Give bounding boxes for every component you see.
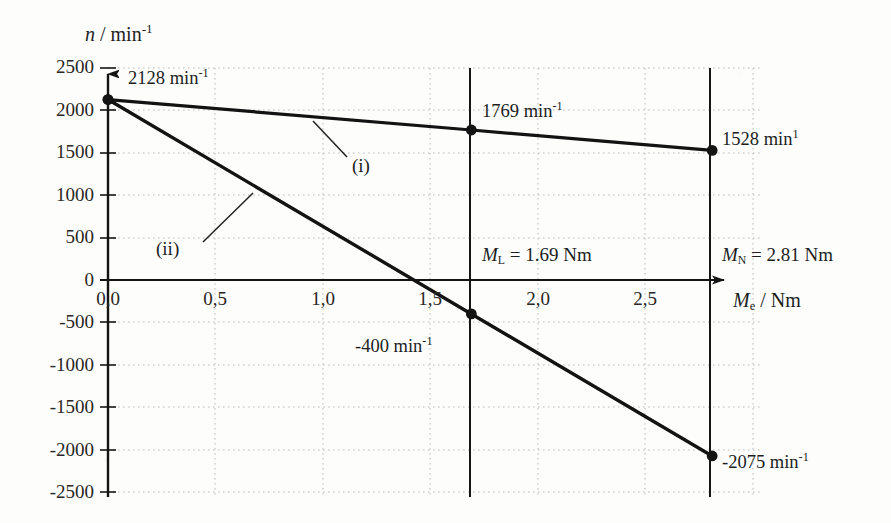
label-ML-subscript: L xyxy=(498,254,505,267)
annotation-1528-exponent: 1 xyxy=(792,127,798,141)
data-point-ii-2 xyxy=(707,451,718,462)
annotation--2075-text: -2075 min xyxy=(722,452,799,472)
data-point-ii-1 xyxy=(466,309,477,320)
ytick-label--1500: -1500 xyxy=(8,396,94,418)
curve-label-i: (i) xyxy=(352,155,370,177)
ytick-label-1000: 1000 xyxy=(8,184,94,206)
speed-torque-chart: 2500 2000 1500 1000 500 0 -500 -1000 -15… xyxy=(0,0,891,523)
xtick-label-2.0: 2,0 xyxy=(508,288,568,310)
ytick-label--2500: -2500 xyxy=(8,481,94,503)
xtick-label-2.5: 2,5 xyxy=(615,288,675,310)
y-axis-title-rest: / min xyxy=(95,23,142,45)
annotation-2128: 2128 min-1 xyxy=(128,68,209,89)
x-axis-title: Me / Nm xyxy=(733,289,801,312)
ytick-label-2500: 2500 xyxy=(8,56,94,78)
annotation-1769-exponent: -1 xyxy=(552,99,562,113)
ytick-label--1000: -1000 xyxy=(8,354,94,376)
y-axis-title: n / min-1 xyxy=(85,23,153,46)
y-axis-title-exponent: -1 xyxy=(142,21,153,36)
annotation--400: -400 min-1 xyxy=(355,336,433,357)
ytick-label-2000: 2000 xyxy=(8,99,94,121)
ytick-label-500: 500 xyxy=(8,226,94,248)
curve-label-ii: (ii) xyxy=(156,238,179,260)
ytick-label--2000: -2000 xyxy=(8,439,94,461)
annotation-1769: 1769 min-1 xyxy=(482,101,563,122)
label-ML-rest: = 1.69 Nm xyxy=(505,244,592,265)
annotation--400-text: -400 min xyxy=(355,336,422,356)
data-point-i-1 xyxy=(466,125,477,136)
annotation-2128-text: 2128 min xyxy=(128,68,198,88)
label-MN-symbol: M xyxy=(722,244,738,265)
xtick-label-0.0: 0,0 xyxy=(78,288,138,310)
xtick-label-0.5: 0,5 xyxy=(185,288,245,310)
annotation--2075: -2075 min-1 xyxy=(722,452,809,473)
y-axis-title-symbol: n xyxy=(85,23,95,45)
label-MN-rest: = 2.81 Nm xyxy=(746,244,833,265)
xtick-label-1.0: 1,0 xyxy=(293,288,353,310)
leader-line-ii xyxy=(203,193,253,242)
data-point-ii-0 xyxy=(103,94,114,105)
annotation-1528: 1528 min1 xyxy=(722,129,799,150)
ytick-label--500: -500 xyxy=(8,311,94,333)
curve-i-line xyxy=(108,100,712,151)
label-ML: ML = 1.69 Nm xyxy=(482,244,592,266)
leader-line-i xyxy=(313,121,347,157)
curve-ii-line xyxy=(108,100,712,456)
x-axis-title-symbol: M xyxy=(733,289,750,311)
annotation-2128-exponent: -1 xyxy=(198,66,208,80)
annotation--2075-exponent: -1 xyxy=(799,450,809,464)
xtick-label-1.5: 1,5 xyxy=(400,288,460,310)
data-point-i-2 xyxy=(707,145,718,156)
label-ML-symbol: M xyxy=(482,244,498,265)
x-axis-title-rest: / Nm xyxy=(755,289,801,311)
annotation--400-exponent: -1 xyxy=(422,334,432,348)
annotation-1769-text: 1769 min xyxy=(482,101,552,121)
label-MN: MN = 2.81 Nm xyxy=(722,244,833,266)
ytick-label-1500: 1500 xyxy=(8,141,94,163)
annotation-1528-text: 1528 min xyxy=(722,129,792,149)
